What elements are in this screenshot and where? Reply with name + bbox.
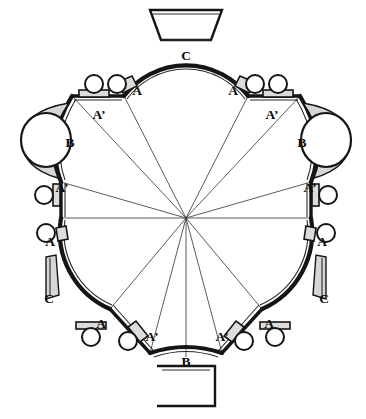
label-aprime-bottom-left: A’ (145, 329, 158, 344)
label-b-left: B (65, 135, 74, 150)
label-a-mid-left: A (45, 234, 55, 249)
label-c-lower-left: C (44, 291, 54, 306)
label-c-top: C (181, 48, 191, 63)
niche-left-bowl (21, 113, 71, 167)
label-b-right: B (297, 135, 306, 150)
floor-plan-drawing: C A A A’ A’ B B A’ A’ A A C C A A A’ A’ … (0, 0, 366, 419)
label-aprime-mid-right: A’ (303, 180, 316, 195)
label-aprime-bottom-right: A’ (215, 329, 228, 344)
niche-right-bowl (301, 113, 351, 167)
label-a-bottom-right: A (264, 316, 274, 331)
entrance-bottom (157, 366, 215, 406)
label-a-mid-right: A (317, 234, 327, 249)
label-aprime-upper-right: A’ (265, 107, 278, 122)
label-a-top-right: A (228, 83, 238, 98)
label-aprime-mid-left: A’ (55, 180, 68, 195)
label-aprime-upper-left: A’ (92, 107, 105, 122)
label-b-bottom: B (181, 354, 190, 369)
label-a-bottom-left: A (96, 316, 106, 331)
label-c-lower-right: C (319, 291, 329, 306)
label-a-top-left: A (132, 83, 142, 98)
floor-plan-figure: C A A A’ A’ B B A’ A’ A A C C A A A’ A’ … (0, 0, 366, 419)
